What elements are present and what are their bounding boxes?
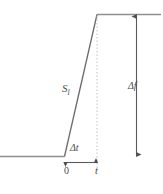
- delta-t-label: Δt: [70, 143, 79, 153]
- x-tick-label-time-t: t: [95, 166, 98, 176]
- signal-slope-label: Sl: [62, 83, 70, 97]
- signal-ramp-figure: Sl Δt Δf 0 t: [0, 0, 163, 194]
- figure-canvas: [0, 0, 163, 194]
- x-tick-label-origin: 0: [64, 166, 69, 176]
- cropped-caption-fragment: [0, 188, 163, 194]
- delta-f-label: Δf: [128, 81, 137, 91]
- signal-slope-subscript: l: [68, 88, 70, 97]
